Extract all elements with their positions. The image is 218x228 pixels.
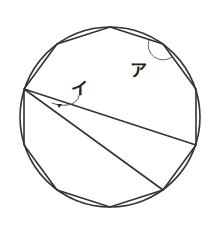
arrow-marker-icon (57, 104, 62, 108)
label-angle-i: イ (71, 78, 88, 98)
diagonal-2 (24, 89, 163, 190)
label-angle-a: ア (130, 60, 147, 80)
decagon-diagram: ア イ (0, 0, 218, 228)
diagonal-1 (24, 89, 196, 145)
